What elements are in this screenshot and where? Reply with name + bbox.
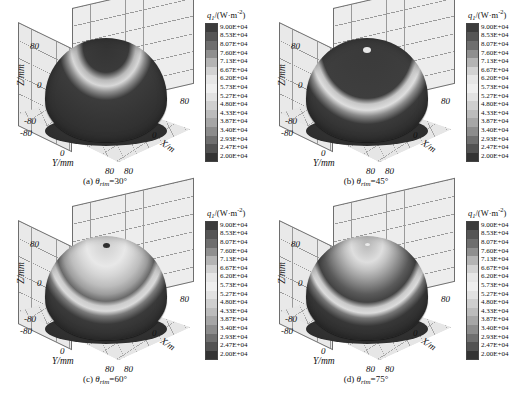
colorbar-swatch: [467, 32, 478, 41]
colorbar-swatch: [206, 291, 217, 300]
colorbar-tick-label: 7.13E+04: [220, 255, 247, 264]
colorbar-tick-label: 7.60E+04: [220, 247, 247, 256]
colorbar-tick-label: 7.13E+04: [481, 255, 508, 264]
colorbar-tick-label: 5.73E+04: [481, 83, 508, 92]
colorbar-swatch: [206, 334, 217, 343]
colorbar-swatch: [467, 273, 478, 282]
caption-sub-c: rim: [100, 378, 110, 386]
caption-sub-b: rim: [361, 180, 371, 188]
apex-marker-d: [365, 243, 370, 246]
colorbar-swatch: [467, 222, 478, 231]
z-axis-label: Z/mm: [277, 262, 287, 284]
caption-value-a: =30°: [109, 176, 127, 186]
colorbar-swatch: [206, 32, 217, 41]
panel-a: 80 0 -80 Z/mm -80 0 80 Y/mm 80 80 0 X/m …: [0, 0, 261, 198]
colorbar-swatches-c: [205, 221, 218, 361]
colorbar-swatch: [467, 127, 478, 136]
colorbar-tick-label: 9.00E+04: [481, 23, 508, 32]
colorbar-swatch: [467, 41, 478, 50]
y-tick-min: -80: [281, 326, 293, 336]
colorbar-tick-label: 2.47E+04: [481, 341, 508, 350]
x-tick-mid: 0: [413, 328, 418, 338]
colorbar-tick-label: 4.33E+04: [220, 307, 247, 316]
colorbar-swatch: [467, 248, 478, 257]
z-axis-label: Z/mm: [16, 64, 26, 86]
colorbar-tick-label: 2.47E+04: [481, 143, 508, 152]
colorbar-swatch: [467, 282, 478, 291]
plot-area-a: 80 0 -80 Z/mm -80 0 80 Y/mm 80 80 0 X/m: [12, 8, 202, 168]
y-tick-max: 80: [366, 364, 375, 374]
x-tick-mid: 0: [413, 130, 418, 140]
colorbar-swatch: [467, 334, 478, 343]
colorbar-swatch: [206, 101, 217, 110]
colorbar-swatch: [206, 299, 217, 308]
y-axis-label: Y/mm: [52, 356, 74, 366]
colorbar-swatches-a: [205, 23, 218, 163]
z-tick-top: 80: [291, 41, 300, 51]
colorbar-swatch: [206, 41, 217, 50]
colorbar-swatches-d: [466, 221, 479, 361]
colorbar-tick-label: 8.53E+04: [481, 31, 508, 40]
colorbar-body-c: 9.00E+048.53E+048.07E+047.60E+047.13E+04…: [205, 221, 261, 361]
colorbar-swatch: [206, 342, 217, 351]
y-tick-min: -80: [20, 128, 32, 138]
colorbar-swatch: [467, 93, 478, 102]
y-tick-max: 80: [105, 364, 114, 374]
colorbar-tick-label: 4.33E+04: [481, 307, 508, 316]
x-tick-mid: 0: [152, 130, 157, 140]
colorbar-b: q1/(W·m-2) 9.00E+048.53E+048.07E+047.60E…: [466, 8, 522, 162]
y-tick-max: 80: [105, 166, 114, 176]
plot-area-c: 80 0 -80 Z/mm -80 0 80 Y/mm 80 80 0 X/m: [12, 206, 202, 366]
colorbar-tick-label: 8.53E+04: [481, 229, 508, 238]
y-axis-label: Y/mm: [313, 158, 335, 168]
colorbar-swatch: [467, 256, 478, 265]
colorbar-swatch: [467, 118, 478, 127]
y-tick-min: -80: [281, 128, 293, 138]
colorbar-tick-label: 9.00E+04: [220, 23, 247, 32]
colorbar-tick-label: 6.20E+04: [481, 272, 508, 281]
colorbar-tick-label: 9.00E+04: [481, 221, 508, 230]
x-tick-max: 80: [180, 96, 189, 106]
colorbar-tick-label: 4.80E+04: [220, 298, 247, 307]
colorbar-swatch: [467, 153, 478, 162]
colorbar-tick-label: 3.40E+04: [481, 324, 508, 333]
x-tick-max: 80: [441, 294, 450, 304]
colorbar-swatch: [467, 325, 478, 334]
caption-index-d: (d): [344, 374, 355, 384]
colorbar-tick-label: 8.53E+04: [220, 31, 247, 40]
z-tick-mid: 0: [298, 278, 303, 288]
corner-tick: 80: [124, 364, 133, 374]
caption-sub-d: rim: [361, 378, 371, 386]
colorbar-tick-label: 7.60E+04: [481, 49, 508, 58]
caption-sub-a: rim: [100, 180, 110, 188]
colorbar-swatch: [467, 239, 478, 248]
colorbar-tick-label: 6.67E+04: [481, 66, 508, 75]
colorbar-tick-label: 4.80E+04: [220, 100, 247, 109]
colorbar-tick-label: 2.00E+04: [481, 152, 508, 161]
colorbar-tick-label: 6.20E+04: [220, 272, 247, 281]
colorbar-swatch: [206, 256, 217, 265]
caption-index-b: (b): [344, 176, 355, 186]
colorbar-swatch: [206, 93, 217, 102]
corner-tick: 80: [385, 364, 394, 374]
colorbar-swatch: [467, 75, 478, 84]
x-tick-mid: 0: [152, 328, 157, 338]
colorbar-tick-label: 2.00E+04: [481, 350, 508, 359]
figure-heat-flux-surface-grid: 80 0 -80 Z/mm -80 0 80 Y/mm 80 80 0 X/m …: [0, 0, 522, 396]
colorbar-swatch: [206, 24, 217, 33]
colorbar-title-c: q1/(W·m-2): [207, 206, 261, 219]
colorbar-tick-label: 7.60E+04: [220, 49, 247, 58]
colorbar-swatch: [467, 136, 478, 145]
colorbar-swatch: [206, 50, 217, 59]
plot-area-b: 80 0 -80 Z/mm -80 0 80 Y/mm 80 80 0 X/m: [273, 8, 463, 168]
colorbar-swatch: [206, 316, 217, 325]
z-tick-mid: 0: [37, 80, 42, 90]
colorbar-labels-b: 9.00E+048.53E+048.07E+047.60E+047.13E+04…: [481, 23, 508, 163]
colorbar-tick-label: 4.80E+04: [481, 298, 508, 307]
colorbar-swatches-b: [466, 23, 479, 163]
cb-units: /(W·m: [476, 208, 499, 218]
colorbar-swatch: [206, 239, 217, 248]
colorbar-tick-label: 3.40E+04: [481, 126, 508, 135]
colorbar-tick-label: 4.33E+04: [220, 109, 247, 118]
colorbar-swatch: [206, 110, 217, 119]
